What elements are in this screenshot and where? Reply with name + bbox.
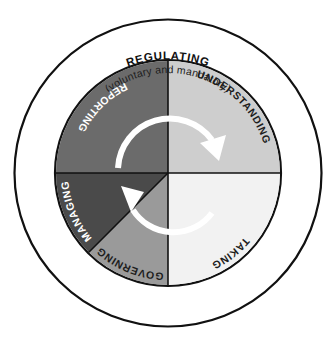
segment-reporting[interactable] <box>56 61 168 173</box>
cycle-wheel-graphic: REGULATING (voluntary and mandatory) REP… <box>0 0 332 346</box>
segment-understanding[interactable] <box>168 61 280 173</box>
regulating-cycle-diagram: REGULATING (voluntary and mandatory) REP… <box>0 0 332 346</box>
